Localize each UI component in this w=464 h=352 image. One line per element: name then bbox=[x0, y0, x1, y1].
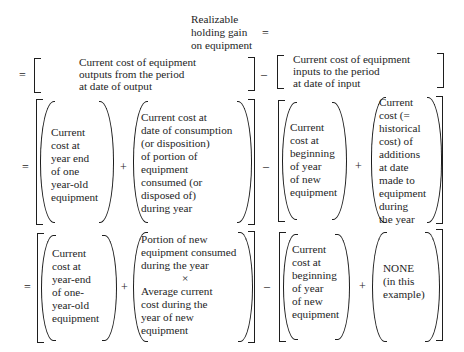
text-line: historical bbox=[379, 122, 421, 135]
text-line: cost during the bbox=[141, 298, 208, 311]
row1-outputs-line-3: at date of output bbox=[79, 80, 152, 93]
text-line: additions bbox=[379, 148, 420, 161]
text-line: of new bbox=[292, 295, 323, 308]
text-line: date of consumption bbox=[141, 124, 232, 137]
text-line: beginning bbox=[290, 147, 335, 160]
row1-outputs-line-1: Current cost of equipment bbox=[79, 56, 196, 69]
minus-sign: – bbox=[263, 160, 269, 172]
text-line: the year bbox=[379, 213, 415, 226]
row1-outputs-line-2: outputs from the period bbox=[79, 68, 184, 81]
row1-inputs-line-2: inputs to the period bbox=[293, 65, 380, 78]
right-bracket bbox=[248, 99, 255, 225]
text-line: cost at bbox=[290, 134, 319, 147]
text-line: consumed (or bbox=[141, 176, 202, 189]
text-line: equipment bbox=[52, 312, 99, 325]
text-line: equipment bbox=[141, 324, 188, 337]
text-line: Current bbox=[292, 243, 326, 256]
text-line: Current bbox=[51, 126, 85, 139]
title-line-3: on equipment bbox=[191, 39, 252, 52]
text-line: beginning bbox=[292, 269, 337, 282]
plus-sign: + bbox=[121, 281, 128, 293]
text-line: during year bbox=[141, 202, 192, 215]
text-line: during the year bbox=[141, 259, 209, 272]
text-line: equipment consumed bbox=[141, 246, 236, 259]
text-line: year end bbox=[51, 152, 89, 165]
text-line: cost (= bbox=[379, 109, 410, 122]
text-line: of portion of bbox=[141, 150, 198, 163]
minus-sign: – bbox=[264, 280, 270, 292]
text-line: disposed of) bbox=[141, 189, 196, 202]
text-line: of year bbox=[290, 160, 321, 173]
text-line: cost at bbox=[292, 256, 321, 269]
text-line: Current bbox=[52, 247, 86, 260]
text-line: (in this bbox=[383, 275, 414, 288]
text-line: year-end bbox=[52, 273, 91, 286]
text-line: of one bbox=[51, 165, 79, 178]
right-paren bbox=[102, 235, 117, 341]
equals-sign: = bbox=[19, 69, 26, 81]
text-line: year-old bbox=[52, 299, 89, 312]
minus-sign: – bbox=[261, 68, 267, 80]
text-line: (or disposition) bbox=[141, 137, 210, 150]
text-line: Current bbox=[290, 121, 324, 134]
text-line: Portion of new bbox=[141, 233, 208, 246]
equals-sign: = bbox=[262, 27, 269, 39]
text-line: cost at bbox=[51, 139, 80, 152]
text-line: at date bbox=[379, 161, 409, 174]
right-bracket bbox=[436, 229, 443, 341]
right-bracket bbox=[437, 53, 444, 88]
right-paren bbox=[335, 234, 350, 340]
row1-inputs-line-1: Current cost of equipment bbox=[293, 53, 410, 66]
title-line-2: holding gain bbox=[191, 26, 247, 39]
right-paren bbox=[99, 101, 114, 223]
multiply-sign: × bbox=[182, 272, 188, 285]
text-line: of one- bbox=[52, 286, 84, 299]
right-bracket bbox=[248, 57, 255, 91]
plus-sign: + bbox=[120, 161, 127, 173]
right-bracket bbox=[248, 231, 255, 343]
left-bracket bbox=[277, 55, 284, 89]
left-bracket bbox=[34, 58, 41, 93]
text-line: year-old bbox=[51, 178, 88, 191]
text-line: equipment bbox=[51, 191, 98, 204]
row1-inputs-line-3: at date of input bbox=[293, 77, 360, 90]
text-line: equipment bbox=[141, 163, 188, 176]
right-bracket bbox=[436, 96, 443, 224]
text-line: cost at bbox=[52, 260, 81, 273]
plus-sign: + bbox=[355, 160, 362, 172]
text-line: NONE bbox=[383, 262, 414, 275]
equals-sign: = bbox=[24, 281, 31, 293]
title-line-1: Realizable bbox=[191, 13, 238, 26]
text-line: equipment bbox=[379, 187, 426, 200]
text-line: made to bbox=[379, 174, 415, 187]
text-line: equipment bbox=[290, 186, 337, 199]
text-line: Current bbox=[379, 96, 413, 109]
text-line: cost) of bbox=[379, 135, 413, 148]
equals-sign: = bbox=[22, 161, 29, 173]
text-line: Average current bbox=[141, 285, 213, 298]
text-line: equipment bbox=[292, 308, 339, 321]
text-line: Current cost at bbox=[141, 111, 207, 124]
text-line: example) bbox=[383, 288, 425, 301]
text-line: of new bbox=[290, 173, 321, 186]
text-line: year of new bbox=[141, 311, 194, 324]
text-line: during bbox=[379, 200, 408, 213]
right-paren bbox=[332, 102, 347, 220]
plus-sign: + bbox=[359, 280, 366, 292]
text-line: of year bbox=[292, 282, 323, 295]
